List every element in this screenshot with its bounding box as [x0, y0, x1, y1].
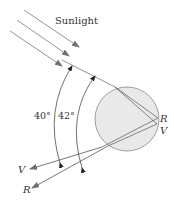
- drop-red-label: R: [159, 113, 168, 124]
- angle-violet-label: 40°: [34, 110, 51, 121]
- exit-rays: [30, 146, 108, 188]
- out-red-label: R: [22, 184, 31, 195]
- out-violet-label: V: [18, 164, 27, 175]
- drop-violet-label: V: [160, 125, 169, 136]
- raindrop-diagram: Sunlight 40° 42° R V V R: [0, 0, 174, 201]
- raindrop: [95, 87, 159, 151]
- sunlight-label: Sunlight: [55, 15, 98, 26]
- angle-red-label: 42°: [58, 110, 75, 121]
